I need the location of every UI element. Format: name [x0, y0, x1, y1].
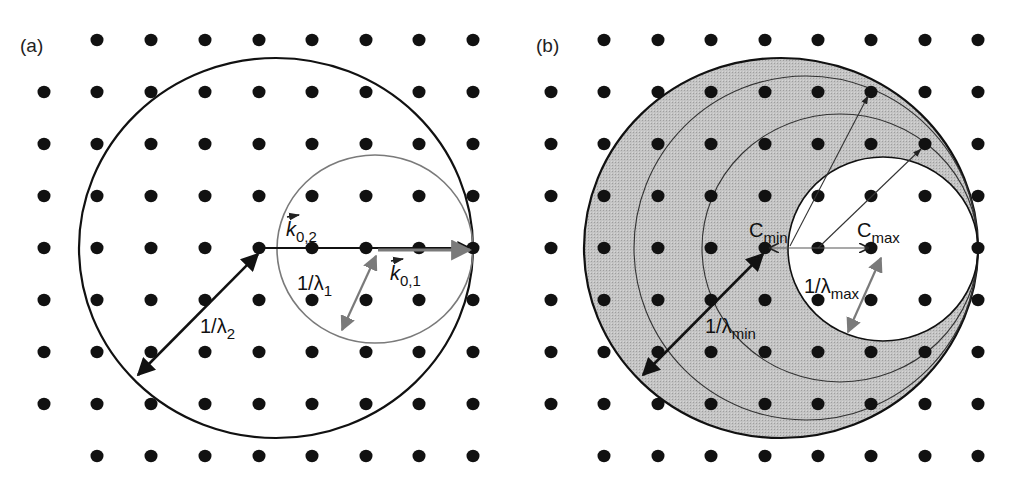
lattice-point [306, 294, 319, 306]
lattice-point [598, 450, 611, 462]
lattice-point [360, 86, 373, 98]
lattice-point [199, 138, 212, 150]
lattice-point [812, 34, 825, 46]
lattice-point [545, 346, 558, 358]
lattice-point [919, 450, 932, 462]
lattice-point [306, 34, 319, 46]
lattice-point [360, 190, 373, 202]
lattice-point [360, 294, 373, 306]
lattice-point [91, 242, 104, 254]
lattice-point [545, 190, 558, 202]
lattice-point [759, 138, 772, 150]
lattice-point [145, 190, 158, 202]
lattice-point [360, 450, 373, 462]
cmax-label: Cmax [857, 219, 900, 246]
lattice-point [865, 450, 878, 462]
lattice-point [972, 398, 985, 410]
figure-canvas: (a) k0,2k0,11/λ11/λ2 (b) CminCmax1/λmax1… [0, 0, 1014, 490]
lattice-point [705, 190, 718, 202]
lattice-point [759, 398, 772, 410]
lattice-point [759, 294, 772, 306]
lattice-point [972, 86, 985, 98]
lattice-point [467, 398, 480, 410]
lattice-point [91, 34, 104, 46]
lattice-point [919, 398, 932, 410]
vector-arrow-icon [391, 259, 403, 261]
lattice-point [652, 86, 665, 98]
inv-lambda2-arrow [138, 254, 258, 375]
lattice-point [145, 86, 158, 98]
lattice-point [812, 86, 825, 98]
panel-b: (b) CminCmax1/λmax1/λmin [536, 34, 985, 462]
lattice-point [38, 86, 51, 98]
lattice-point [306, 346, 319, 358]
lattice-point [467, 138, 480, 150]
lattice-point [199, 450, 212, 462]
lattice-point [91, 398, 104, 410]
lattice-point [91, 138, 104, 150]
lattice-point [705, 398, 718, 410]
lattice-point [865, 346, 878, 358]
lattice-point [545, 294, 558, 306]
k01-label: k0,1 [390, 262, 421, 289]
lattice-point [38, 242, 51, 254]
lattice-point [360, 34, 373, 46]
lattice-point [865, 138, 878, 150]
lattice-point [919, 138, 932, 150]
lattice-point [972, 242, 985, 254]
lattice-point [598, 398, 611, 410]
lattice-point [467, 86, 480, 98]
lattice-point [972, 294, 985, 306]
lattice-point [545, 86, 558, 98]
lattice-point [91, 450, 104, 462]
lattice-point [652, 398, 665, 410]
lattice-point [919, 34, 932, 46]
lattice-point [972, 346, 985, 358]
lattice-point [413, 398, 426, 410]
lattice-point [812, 138, 825, 150]
lattice-point [253, 242, 266, 254]
lattice-point [652, 450, 665, 462]
lattice-point [598, 190, 611, 202]
lattice-point [972, 450, 985, 462]
lattice-point [812, 398, 825, 410]
lattice-point [253, 190, 266, 202]
lattice-point [413, 346, 426, 358]
lattice-point [467, 34, 480, 46]
lattice-point [253, 34, 266, 46]
lattice-point [467, 450, 480, 462]
lattice-point [145, 34, 158, 46]
panel-label-a: (a) [20, 35, 43, 56]
inv-lambda1-arrow [342, 256, 376, 330]
lattice-point [199, 34, 212, 46]
lattice-point [413, 86, 426, 98]
lattice-point [360, 346, 373, 358]
lattice-point [545, 242, 558, 254]
lattice-point [38, 398, 51, 410]
lattice-point [652, 190, 665, 202]
lattice-point [919, 190, 932, 202]
lattice-point [145, 450, 158, 462]
k02-label: k0,2 [286, 218, 317, 245]
lattice-point [919, 242, 932, 254]
lattice-point [199, 242, 212, 254]
lattice-point [91, 346, 104, 358]
lattice-point [759, 450, 772, 462]
lattice-point [652, 34, 665, 46]
panel-a: (a) k0,2k0,11/λ11/λ2 [20, 34, 480, 462]
lattice-point [598, 86, 611, 98]
lattice-point [199, 190, 212, 202]
lattice-point [253, 138, 266, 150]
lattice-point [759, 86, 772, 98]
lattice-point [812, 346, 825, 358]
ewald-sphere-figure: (a) k0,2k0,11/λ11/λ2 (b) CminCmax1/λmax1… [0, 0, 1014, 490]
lattice-point [865, 190, 878, 202]
lattice-point [972, 34, 985, 46]
lattice-point [598, 138, 611, 150]
lattice-point [759, 34, 772, 46]
lattice-point [413, 450, 426, 462]
lattice-point [145, 138, 158, 150]
lattice-point [919, 86, 932, 98]
lattice-point [360, 138, 373, 150]
lattice-point [705, 34, 718, 46]
